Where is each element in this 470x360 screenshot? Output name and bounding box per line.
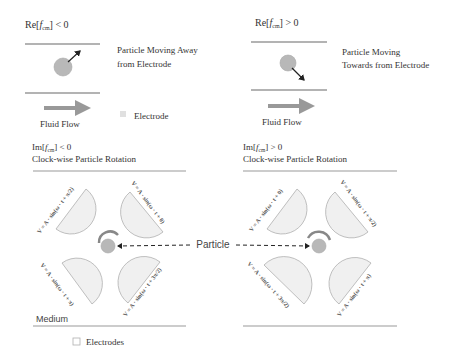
electrode-bottom-left xyxy=(264,257,312,304)
particle xyxy=(280,55,296,71)
callout-dashed-arrow-right xyxy=(236,245,309,246)
motion-arrow-towards xyxy=(292,68,304,80)
rotation-label: Clock-wise Particle Rotation xyxy=(243,154,347,164)
re-positive-condition: Re[fcm] > 0 xyxy=(255,17,299,29)
motion-description-line2: Towards from Electrode xyxy=(342,60,429,70)
fluid-flow-label: Fluid Flow xyxy=(262,117,302,127)
panel-im-negative: Im[fcm] < 0 Clock-wise Particle Rotation… xyxy=(32,142,186,347)
panel-re-positive: Re[fcm] > 0 Particle Moving Towards from… xyxy=(251,17,429,127)
panel-im-positive: Im[fcm] > 0 Clock-wise Particle Rotation… xyxy=(243,142,397,326)
rotation-label: Clock-wise Particle Rotation xyxy=(32,154,136,164)
motion-arrow-away xyxy=(68,51,80,62)
electrodes-legend-label: Electrodes xyxy=(86,337,124,347)
electrode-legend-swatch xyxy=(120,111,126,117)
panel-re-negative: Re[fcm] < 0 Particle Moving Away from El… xyxy=(25,19,198,129)
re-negative-condition: Re[fcm] < 0 xyxy=(25,19,69,31)
electrode-top-right xyxy=(326,192,368,238)
particle-callout-label: Particle xyxy=(196,239,230,250)
dep-rotation-diagram: Re[fcm] < 0 Particle Moving Away from El… xyxy=(0,0,470,360)
medium-label: Medium xyxy=(36,314,68,324)
motion-description-line1: Particle Moving Away xyxy=(117,45,198,55)
particle xyxy=(101,239,115,253)
im-positive-condition: Im[fcm] > 0 xyxy=(243,142,283,153)
fluid-flow-label: Fluid Flow xyxy=(40,119,80,129)
electrode-legend-label: Electrode xyxy=(134,111,168,121)
im-negative-condition: Im[fcm] < 0 xyxy=(32,142,72,153)
particle-callout: Particle xyxy=(118,239,309,250)
callout-dashed-arrow-left xyxy=(118,245,190,246)
motion-description-line1: Particle Moving xyxy=(342,47,401,57)
electrodes-legend-swatch xyxy=(73,338,80,345)
particle xyxy=(312,239,326,253)
motion-description-line2: from Electrode xyxy=(117,59,171,69)
